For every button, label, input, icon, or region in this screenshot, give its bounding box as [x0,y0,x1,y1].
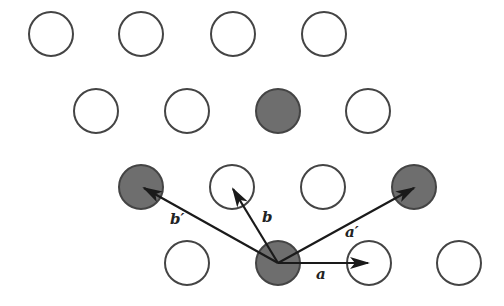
vector-b-label: b [262,210,273,225]
empty-atom [210,165,254,209]
vector-b-arrow [233,189,278,263]
empty-atom [119,12,163,56]
empty-atom [165,241,209,285]
vector-a-prime-label: a′ [345,225,359,240]
vector-b-prime-label: b′ [170,212,184,227]
empty-atom [211,12,255,56]
lattice-diagram [0,0,504,306]
empty-atom [165,89,209,133]
filled-atom [256,89,300,133]
filled-atom [392,165,436,209]
empty-atom [301,165,345,209]
empty-atom [437,241,481,285]
empty-atom [346,89,390,133]
vector-b-prime-arrow [144,188,278,263]
empty-atom [29,12,73,56]
vector-a-label: a [316,267,326,282]
filled-atom [119,165,163,209]
empty-atom [74,89,118,133]
empty-atom [302,12,346,56]
atom-layer [29,12,481,285]
